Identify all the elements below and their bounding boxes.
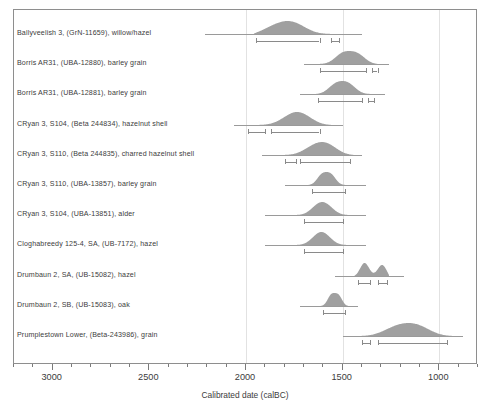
axis-tick-label: 3000 [41, 372, 61, 382]
sample-row: Borris AR31, (UBA-12881), barley grain [14, 76, 476, 106]
range-bar-cap [312, 189, 313, 194]
probability-distribution [14, 323, 478, 336]
range-bar-cap [345, 310, 346, 315]
axis-tick-minor [206, 364, 207, 367]
range-bar [312, 192, 345, 193]
range-bar-cap [447, 340, 448, 345]
distribution-baseline [300, 306, 358, 307]
range-bar [378, 343, 448, 344]
range-bar-cap [372, 68, 373, 73]
range-bar-cap [265, 129, 266, 134]
range-bar [323, 313, 344, 314]
range-bar-cap [374, 98, 375, 103]
axis-tick-minor [226, 364, 227, 367]
range-bar-cap [370, 340, 371, 345]
range-bar [271, 132, 319, 133]
axis-tick-minor [264, 364, 265, 367]
range-bar-cap [285, 159, 286, 164]
distribution-baseline [265, 245, 366, 246]
axis-tick-minor [187, 364, 188, 367]
range-bar-cap [366, 68, 367, 73]
axis-tick-label: 1000 [428, 372, 448, 382]
axis-tick-label: 2000 [235, 372, 255, 382]
axis-tick-major [438, 364, 439, 370]
sample-row: CRyan 3, S104, (UBA-13851), alder [14, 197, 476, 227]
range-bar-cap [320, 68, 321, 73]
range-bar [304, 222, 343, 223]
probability-distribution [14, 51, 478, 64]
probability-distribution [14, 21, 478, 34]
axis-tick-minor [284, 364, 285, 367]
range-bar-cap [350, 159, 351, 164]
axis-tick-major [342, 364, 343, 370]
range-bar [256, 41, 320, 42]
range-bar-cap [368, 98, 369, 103]
axis-tick-minor [303, 364, 304, 367]
range-bar-cap [320, 38, 321, 43]
range-bar [285, 162, 297, 163]
axis-tick-minor [322, 364, 323, 367]
range-bar [362, 343, 370, 344]
range-bar-cap [296, 159, 297, 164]
axis-tick-minor [32, 364, 33, 367]
distribution-baseline [304, 64, 389, 65]
probability-distribution [14, 202, 478, 215]
range-bar-cap [378, 280, 379, 285]
range-bar [300, 162, 350, 163]
axis-tick-minor [380, 364, 381, 367]
axis-tick-minor [419, 364, 420, 367]
range-bar-cap [271, 129, 272, 134]
range-bar-cap [343, 219, 344, 224]
range-bar [248, 132, 265, 133]
range-bar [320, 71, 366, 72]
range-bar-cap [339, 38, 340, 43]
sample-row: Prumplestown Lower, (Beta-243986), grain [14, 318, 476, 348]
axis-tick-minor [90, 364, 91, 367]
axis-tick-minor [71, 364, 72, 367]
range-bar-cap [323, 310, 324, 315]
sample-row: CRyan 3, S104, (Beta 244834), hazelnut s… [14, 107, 476, 137]
range-bar-cap [378, 68, 379, 73]
range-bar-cap [320, 129, 321, 134]
range-bar-cap [362, 98, 363, 103]
distribution-baseline [335, 276, 405, 277]
range-bar-cap [300, 159, 301, 164]
range-bar-cap [304, 219, 305, 224]
probability-distribution [14, 112, 478, 125]
probability-distribution [14, 81, 478, 94]
plot-frame: Ballyveelish 3, (GrN-11659), willow/haze… [13, 9, 477, 364]
x-axis-title: Calibrated date (calBC) [13, 390, 477, 400]
distribution-baseline [343, 336, 463, 337]
axis-tick-label: 2500 [138, 372, 158, 382]
axis-tick-minor [400, 364, 401, 367]
range-bar [331, 41, 339, 42]
range-bar [378, 283, 388, 284]
range-bar-cap [343, 249, 344, 254]
distribution-baseline [205, 34, 362, 35]
sample-row: CRyan 3, S110, (UBA-13857), barley grain [14, 167, 476, 197]
distribution-baseline [300, 94, 385, 95]
probability-distribution [14, 263, 478, 276]
range-bar-cap [318, 98, 319, 103]
range-bar-cap [362, 340, 363, 345]
range-bar-cap [378, 340, 379, 345]
range-bar [304, 252, 343, 253]
radiocarbon-calibration-figure: Ballyveelish 3, (GrN-11659), willow/haze… [0, 0, 489, 416]
range-bar [318, 101, 363, 102]
probability-distribution [14, 232, 478, 245]
axis-tick-major [148, 364, 149, 370]
sample-row: Ballyveelish 3, (GrN-11659), willow/haze… [14, 16, 476, 46]
axis-tick-minor [361, 364, 362, 367]
axis-tick-minor [110, 364, 111, 367]
sample-row: Drumbaun 2, SA, (UB-15082), hazel [14, 258, 476, 288]
probability-distribution [14, 293, 478, 306]
axis-tick-major [245, 364, 246, 370]
range-bar-cap [387, 280, 388, 285]
range-bar-cap [345, 189, 346, 194]
distribution-baseline [234, 125, 342, 126]
distribution-baseline [285, 185, 366, 186]
range-bar-cap [331, 38, 332, 43]
axis-tick-minor [458, 364, 459, 367]
range-bar-cap [304, 249, 305, 254]
axis-tick-minor [477, 364, 478, 367]
